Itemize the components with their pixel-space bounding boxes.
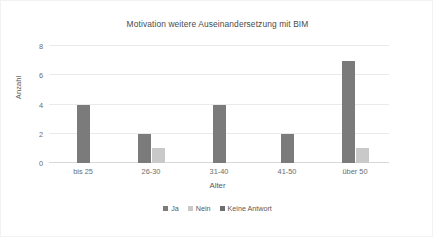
legend-item[interactable]: Keine Antwort (220, 204, 272, 213)
y-axis-tick-label: 8 (21, 42, 43, 51)
bar[interactable] (342, 61, 355, 163)
legend-label: Ja (171, 204, 179, 213)
x-axis-title: Alter (1, 181, 433, 190)
chart-container: Motivation weitere Auseinandersetzung mi… (0, 0, 433, 237)
y-axis-tick-labels: 02468 (17, 46, 43, 163)
legend-swatch-icon (220, 206, 225, 211)
bar-group (117, 46, 185, 163)
x-axis-tick-label: 41-50 (278, 167, 297, 176)
chart-title: Motivation weitere Auseinandersetzung mi… (1, 19, 433, 29)
bar[interactable] (356, 148, 369, 163)
legend-label: Nein (196, 204, 211, 213)
legend-swatch-icon (163, 206, 168, 211)
x-axis-tick-label: bis 25 (73, 167, 93, 176)
y-axis-tick-label: 6 (21, 71, 43, 80)
x-axis-tick-label: 26-30 (142, 167, 161, 176)
bar[interactable] (77, 105, 90, 164)
legend-swatch-icon (188, 206, 193, 211)
x-axis-tick-label: 31-40 (210, 167, 229, 176)
bar-group (321, 46, 389, 163)
bar[interactable] (281, 134, 294, 163)
bar[interactable] (138, 134, 151, 163)
bar[interactable] (152, 148, 165, 163)
chart-legend: JaNeinKeine Antwort (1, 204, 433, 213)
legend-item[interactable]: Ja (163, 204, 179, 213)
bar-group (49, 46, 117, 163)
bar-group (185, 46, 253, 163)
y-axis-tick-label: 4 (21, 100, 43, 109)
legend-item[interactable]: Nein (188, 204, 211, 213)
plot-area (49, 46, 389, 163)
y-axis-tick-label: 0 (21, 159, 43, 168)
x-axis-tick-labels: bis 2526-3031-4041-50über 50 (49, 167, 389, 179)
x-axis-tick-label: über 50 (342, 167, 367, 176)
bar-group (253, 46, 321, 163)
bar[interactable] (213, 105, 226, 164)
legend-label: Keine Antwort (228, 204, 272, 213)
y-axis-tick-label: 2 (21, 129, 43, 138)
